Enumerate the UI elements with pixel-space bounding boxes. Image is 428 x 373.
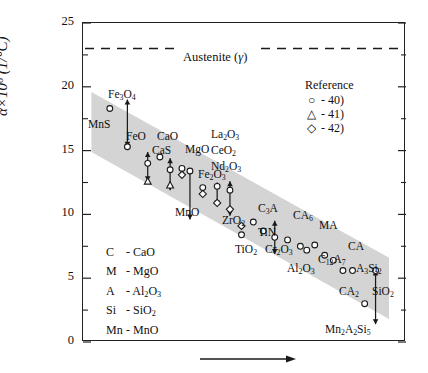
chart-figure: α×106 (1/°C) 0510152025 Austenite (γ) Re… bbox=[0, 0, 428, 373]
x-axis-arrow-layer bbox=[0, 0, 428, 373]
x-axis-arrow bbox=[200, 355, 296, 362]
